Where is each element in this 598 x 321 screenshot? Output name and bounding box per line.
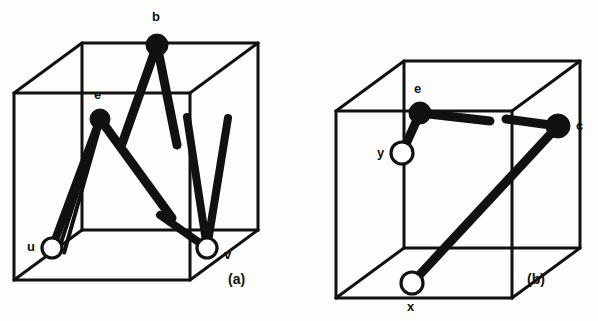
cube-edge-depth-bottom-left xyxy=(336,248,404,298)
node-label-c: c xyxy=(576,119,583,132)
node-b-e xyxy=(409,102,431,124)
cube-edge-depth-top-left xyxy=(336,61,404,111)
node-b-x xyxy=(401,272,423,294)
cube-edge-depth-top-right xyxy=(512,61,580,111)
node-label-v: v xyxy=(224,248,231,261)
panel-b-caption: (b) xyxy=(527,272,545,286)
figure-canvas: b e u v (a) e y c x (b) xyxy=(0,0,598,321)
cube-edge-depth-bottom-right xyxy=(512,248,580,298)
node-label-b: b xyxy=(152,10,160,23)
graph-edge-b-3 xyxy=(412,126,558,283)
node-label-u: u xyxy=(27,240,35,253)
node-label-x: x xyxy=(407,300,414,313)
panel-b-drawing xyxy=(0,0,598,321)
panel-a-caption: (a) xyxy=(228,272,245,286)
node-b-c xyxy=(546,114,570,138)
node-label-e-panel-a: e xyxy=(94,88,101,101)
node-label-y: y xyxy=(377,146,384,159)
node-label-e-panel-b: e xyxy=(414,82,421,95)
node-b-y xyxy=(391,142,413,164)
